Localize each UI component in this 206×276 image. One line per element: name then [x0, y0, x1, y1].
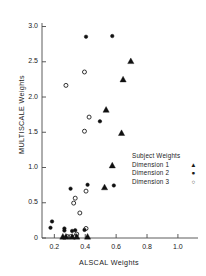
- data-point-dimension-3: [82, 70, 86, 74]
- x-axis-tick-label: 0.2: [43, 243, 65, 250]
- legend-item-label: Dimension 3: [132, 178, 169, 185]
- x-axis-label: ALSCAL Weights: [42, 258, 176, 267]
- legend-item-marker: ●: [189, 169, 198, 177]
- y-axis-tick-label: 1.5: [16, 128, 38, 135]
- legend-item: Dimension 3○: [132, 178, 180, 186]
- legend: Subject Weights Dimension 1▲Dimension 2●…: [132, 152, 180, 186]
- y-axis-tick-label: 0: [16, 234, 38, 241]
- data-point-dimension-3: [73, 196, 77, 200]
- y-axis-tick-label: 2.5: [16, 57, 38, 64]
- data-point-dimension-2: [111, 34, 115, 38]
- data-point-dimension-2: [69, 187, 73, 191]
- legend-item: Dimension 1▲: [132, 161, 180, 169]
- data-point-dimension-1: [109, 162, 115, 168]
- data-point-dimension-3: [82, 129, 86, 133]
- data-point-dimension-2: [84, 35, 88, 39]
- data-point-dimension-2: [112, 184, 116, 188]
- scatter-chart-figure: MULTISCALE Weights ALSCAL Weights 00.51.…: [0, 0, 206, 276]
- y-axis-tick-label: 1.0: [16, 163, 38, 170]
- data-point-dimension-1: [128, 58, 134, 64]
- y-axis-label: MULTISCALE Weights: [17, 70, 26, 160]
- legend-item-marker: ○: [189, 178, 198, 186]
- data-point-dimension-2: [73, 228, 77, 232]
- data-point-dimension-3: [87, 115, 91, 119]
- y-axis-tick-label: 2.0: [16, 93, 38, 100]
- x-axis-tick-label: 0.4: [74, 243, 96, 250]
- data-point-dimension-2: [86, 183, 90, 187]
- y-axis-tick-label: 0.5: [16, 198, 38, 205]
- data-point-dimension-1: [118, 130, 124, 136]
- data-point-dimension-2: [49, 226, 53, 230]
- legend-item-marker: ▲: [189, 161, 198, 169]
- data-point-dimension-1: [120, 76, 126, 82]
- data-point-dimension-3: [64, 83, 68, 87]
- legend-item-label: Dimension 2: [132, 169, 169, 176]
- legend-title: Subject Weights: [132, 152, 180, 160]
- data-point-dimension-1: [101, 184, 107, 190]
- data-point-dimension-1: [103, 107, 109, 113]
- axis-spines: [42, 23, 198, 238]
- data-point-dimension-2: [63, 227, 67, 231]
- data-point-dimension-2: [50, 220, 54, 224]
- legend-item-label: Dimension 1: [132, 161, 169, 168]
- x-axis-tick-label: 1.0: [167, 243, 189, 250]
- data-point-dimension-2: [98, 120, 102, 124]
- y-axis-tick-label: 3.0: [16, 22, 38, 29]
- x-axis-tick-label: 0.8: [136, 243, 158, 250]
- legend-item: Dimension 2●: [132, 169, 180, 177]
- data-point-dimension-3: [84, 189, 88, 193]
- data-point-dimension-3: [72, 201, 76, 205]
- legend-rows: Dimension 1▲Dimension 2●Dimension 3○: [132, 161, 180, 186]
- data-point-dimension-3: [78, 211, 82, 215]
- x-axis-tick-label: 0.6: [105, 243, 127, 250]
